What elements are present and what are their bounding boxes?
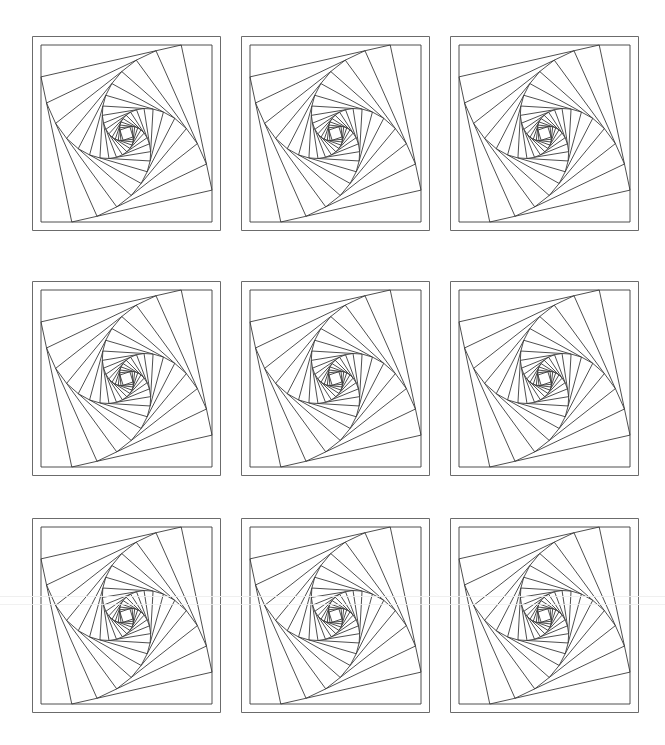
- spiral-panel: [450, 281, 639, 476]
- spiral-panel: [32, 281, 221, 476]
- panel-frame: [451, 282, 639, 476]
- spiral-panel: [450, 36, 639, 231]
- spiral-panel: [32, 518, 221, 713]
- panel-frame: [33, 282, 221, 476]
- spiral-panel: [241, 281, 430, 476]
- spiral-panel: [32, 36, 221, 231]
- panel-frame: [242, 282, 430, 476]
- spiral-panel: [241, 518, 430, 713]
- panel-frame: [451, 37, 639, 231]
- panel-grid: [0, 0, 665, 745]
- panel-frame: [33, 519, 221, 713]
- figure-root: [0, 0, 665, 745]
- spiral-panel: [241, 36, 430, 231]
- spiral-panel: [450, 518, 639, 713]
- panel-frame: [242, 519, 430, 713]
- panel-frame: [33, 37, 221, 231]
- panel-frame: [242, 37, 430, 231]
- panel-frame: [451, 519, 639, 713]
